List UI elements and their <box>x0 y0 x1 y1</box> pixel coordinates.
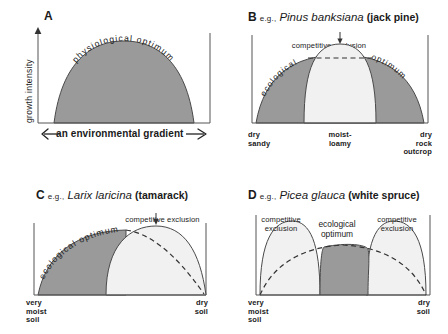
panel-d-letter: D <box>248 188 257 202</box>
panel-b-chart: ecological optimum <box>242 31 438 127</box>
panel-c-chart: ecological optimum <box>22 209 218 301</box>
panel-d-tick-left: very moist soil <box>248 299 294 325</box>
panel-b-competitive-exclusion-area <box>304 44 376 123</box>
panel-a: A growth intensity physiological optimum… <box>0 0 224 167</box>
panel-b-title: B e.g., Pinus banksiana (jack pine) <box>248 12 419 24</box>
panel-b-arrow-icon <box>337 39 342 45</box>
panel-b-species: Pinus banksiana <box>279 11 363 23</box>
panel-c-title: C e.g., Larix laricina (tamarack) <box>36 190 188 202</box>
panel-d-tick-right: dry soil <box>386 299 430 316</box>
panel-a-chart: physiological optimum <box>32 27 216 125</box>
panel-d-common-name: (white spruce) <box>348 189 419 201</box>
panel-b-plot: ecological optimum <box>242 31 438 127</box>
panel-c-letter: C <box>36 188 45 202</box>
panel-a-y-arrow-icon <box>35 27 42 34</box>
panel-a-title: A <box>44 11 53 22</box>
panel-b-common-name: (jack pine) <box>367 11 419 23</box>
panel-c-eg: e.g., <box>48 192 65 201</box>
panel-c-arrow-icon <box>153 219 158 225</box>
panel-d-ecological-optimum-area <box>320 244 369 295</box>
panel-c-tick-right: dry soil <box>164 299 208 316</box>
panel-d: D e.g., Picea glauca (white spruce) comp… <box>224 167 448 334</box>
panel-d-center-label: ecological optimum <box>302 219 372 239</box>
panel-c-plot: ecological optimum <box>22 209 218 301</box>
panel-d-eg: e.g., <box>260 192 277 201</box>
panel-c-tick-left: very moist soil <box>26 299 72 325</box>
panel-c-species: Larix laricina <box>67 189 132 201</box>
panel-c: C e.g., Larix laricina (tamarack) compet… <box>0 167 224 334</box>
panel-b-tick-left: dry sandy <box>248 131 292 148</box>
panel-d-annotation-right: competitive exclusion <box>364 215 430 233</box>
panel-a-letter: A <box>44 9 53 23</box>
panel-c-common-name: (tamarack) <box>135 189 188 201</box>
panel-d-species: Picea glauca <box>279 189 345 201</box>
panel-b-eg: e.g., <box>260 14 277 23</box>
panel-b-tick-right: dry rock outcrop <box>384 131 432 157</box>
panel-b-letter: B <box>248 10 257 24</box>
panel-b: B e.g., Pinus banksiana (jack pine) comp… <box>224 0 448 167</box>
panel-a-gradient-arrows <box>34 126 214 142</box>
panel-d-title: D e.g., Picea glauca (white spruce) <box>248 190 419 202</box>
panel-b-tick-center: moist- loamy <box>316 131 364 148</box>
panel-a-plot: physiological optimum <box>32 27 216 125</box>
